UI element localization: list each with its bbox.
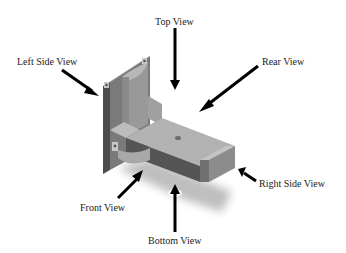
view-orientation-diagram: Top View Left Side View Rear View Right …	[0, 0, 346, 253]
arrow-rear-view	[199, 66, 258, 112]
arrow-front-view	[118, 170, 143, 198]
diagram-canvas	[0, 0, 346, 253]
arrow-right-side-view	[238, 167, 256, 181]
arrow-bottom-view	[170, 184, 180, 232]
arrow-left-side-view	[62, 70, 99, 96]
label-top-view: Top View	[155, 17, 194, 27]
label-right-side-view: Right Side View	[259, 179, 325, 189]
label-left-side-view: Left Side View	[17, 57, 77, 67]
label-front-view: Front View	[80, 203, 125, 213]
bracket-part	[103, 56, 235, 182]
arrow-top-view	[170, 28, 180, 90]
label-bottom-view: Bottom View	[148, 236, 201, 246]
label-rear-view: Rear View	[262, 57, 304, 67]
